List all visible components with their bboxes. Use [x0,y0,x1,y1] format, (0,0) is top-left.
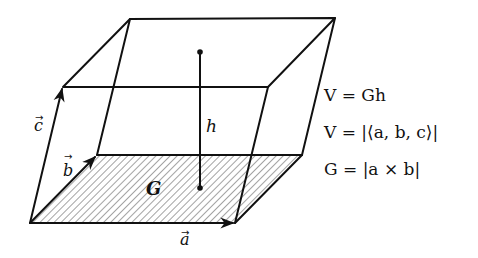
equation-area-cross: G = |a × b| [324,159,420,179]
svg-text:b: b [63,161,73,180]
equation-volume-gh: V = Gh [323,85,386,105]
label-h: h [206,116,217,136]
svg-text:→: → [35,112,43,123]
label-G: G [146,178,161,199]
height-top-dot [197,49,203,55]
svg-text:→: → [64,151,72,162]
height-bottom-dot [197,185,203,191]
parallelepiped-diagram: c → b → a → h G V = Gh V = |⟨a, b, c⟩| G… [0,0,478,258]
label-b: b → [63,151,73,180]
label-a: a → [180,227,190,249]
label-c: c → [34,112,43,135]
equation-volume-triple: V = |⟨a, b, c⟩| [323,122,438,142]
svg-text:→: → [181,227,189,238]
